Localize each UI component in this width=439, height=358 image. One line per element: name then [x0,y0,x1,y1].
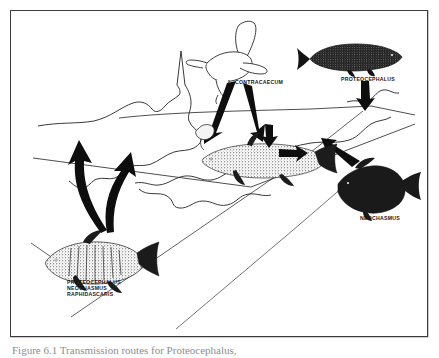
depth-line-right [176,187,343,329]
arrow-group-bottom-host [68,140,136,233]
label-neochasmus: NEOCHASMUS [360,215,400,221]
figure-caption: Figure 6.1 Transmission routes for Prote… [12,345,332,358]
intermediate-host-organism [196,125,215,150]
figure-page: CONTRACAECUM PROTEOCEPHALUS NEOCHASMUS P… [0,0,439,358]
arrow-gull-to-right-shallow [243,83,265,142]
island-chain-contour [139,189,271,208]
arrow-bottom-up-left-curve [68,140,107,233]
label-contracaecum: CONTRACAECUM [235,79,283,85]
fish-neochasmus [338,158,421,221]
fish-bottom-eye [55,259,57,261]
fish-center-tail [315,144,337,173]
fish-proteocephalus-top [297,44,402,77]
gull-head-beak [186,60,207,68]
label-host-stack-line-3: RAPHIDASCARIS [67,291,121,297]
fish-proteocephalus-top-tail [297,48,310,70]
figure-frame: CONTRACAECUM PROTEOCEPHALUS NEOCHASMUS P… [10,10,428,337]
fish-bottom-tail [137,242,159,276]
fish-center-eye [210,158,212,160]
fish-proteocephalus-top-body [310,44,402,71]
fish-proteocephalus-top-eye [391,54,393,56]
fish-neochasmus-eye [347,182,349,184]
intermediate-host-tail [201,139,204,150]
fish-bottom-body [46,242,143,284]
fish-neochasmus-body [338,166,405,213]
label-host-parasite-stack: PROTEOCEPHALUS NEOCHASMUS RAPHIDASCARIS [67,279,121,298]
figure-caption-text: Figure 6.1 Transmission routes for Prote… [12,345,237,356]
fish-center-body [202,144,323,178]
fish-neochasmus-tail [402,172,421,200]
label-proteocephalus-top: PROTEOCEPHALUS [341,76,395,82]
arrow-bottom-up-right-curve [106,152,136,233]
